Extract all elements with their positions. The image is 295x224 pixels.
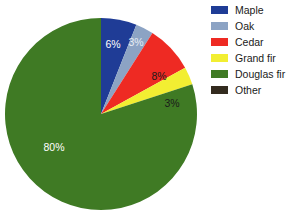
- legend-item[interactable]: Douglas fir: [211, 67, 295, 81]
- legend-item[interactable]: Grand fir: [211, 51, 295, 65]
- legend-item[interactable]: Cedar: [211, 35, 295, 49]
- legend-color-swatch: [211, 70, 228, 78]
- legend-item-label: Other: [235, 83, 261, 97]
- legend-item-label: Maple: [235, 3, 264, 17]
- pie-slice-value-label: 3%: [128, 36, 143, 48]
- legend-color-swatch: [211, 54, 228, 62]
- legend-color-swatch: [211, 6, 228, 14]
- legend-item-label: Douglas fir: [235, 67, 285, 81]
- pie-slice-value-label: 3%: [164, 97, 179, 109]
- legend-item-label: Grand fir: [235, 51, 276, 65]
- pie-chart-figure: 6%3%8%3%80% MapleOakCedarGrand firDougla…: [0, 0, 295, 224]
- legend-item-label: Cedar: [235, 35, 264, 49]
- legend-color-swatch: [211, 22, 228, 30]
- pie-slice-value-label: 8%: [151, 70, 166, 82]
- pie-slice-value-label: 6%: [105, 38, 120, 50]
- legend-item[interactable]: Oak: [211, 19, 295, 33]
- legend-color-swatch: [211, 38, 228, 46]
- chart-legend: MapleOakCedarGrand firDouglas firOther: [211, 3, 295, 97]
- legend-item[interactable]: Other: [211, 83, 295, 97]
- legend-item-label: Oak: [235, 19, 254, 33]
- legend-color-swatch: [211, 86, 228, 94]
- pie-slices-group: [5, 18, 197, 210]
- pie-plot-area: 6%3%8%3%80%: [0, 0, 205, 224]
- legend-item[interactable]: Maple: [211, 3, 295, 17]
- pie-slice-value-label: 80%: [43, 141, 64, 153]
- pie-svg: 6%3%8%3%80%: [0, 0, 205, 224]
